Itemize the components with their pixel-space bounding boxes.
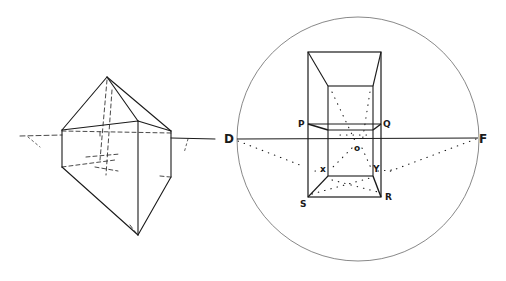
inner-rectangle	[328, 86, 373, 176]
perspective-box-figure: D F P Q o x Y S R	[224, 17, 487, 261]
crystal-figure	[20, 77, 215, 235]
diagram-canvas: D F P Q o x Y S R	[0, 0, 506, 281]
label-p: P	[298, 119, 305, 129]
label-f: F	[479, 132, 487, 146]
point-labels: D F P Q o x Y S R	[224, 119, 487, 209]
label-d: D	[224, 132, 234, 146]
label-q: Q	[383, 119, 391, 129]
label-y: Y	[372, 164, 380, 174]
label-r: R	[385, 192, 392, 202]
label-x: x	[320, 164, 326, 174]
horizon-line-right	[171, 138, 215, 153]
crystal-hidden-edges	[62, 80, 171, 233]
crystal-visible-edges	[62, 77, 171, 235]
label-o: o	[354, 143, 360, 153]
horizon-line	[237, 138, 478, 139]
horizon-line-left	[20, 135, 62, 147]
label-s: S	[300, 199, 306, 209]
